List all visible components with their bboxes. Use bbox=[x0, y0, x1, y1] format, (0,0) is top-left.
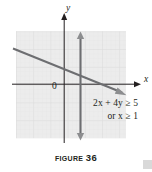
corner-marker bbox=[143, 160, 152, 169]
coordinate-plane: y x 0 2x + 4y ≥ 5 or x ≥ 1 bbox=[0, 0, 152, 145]
y-axis-label: y bbox=[66, 3, 70, 13]
figure-36: y x 0 2x + 4y ≥ 5 or x ≥ 1 FIGURE 36 bbox=[0, 0, 152, 172]
origin-label: 0 bbox=[52, 81, 57, 91]
figure-caption-word: FIGURE bbox=[55, 155, 83, 162]
figure-caption: FIGURE 36 bbox=[0, 152, 152, 163]
inequality-annotation: 2x + 4y ≥ 5 or x ≥ 1 bbox=[72, 97, 138, 122]
figure-caption-number: 36 bbox=[86, 152, 97, 163]
inequality-line-2: or x ≥ 1 bbox=[72, 110, 138, 123]
inequality-line-1: 2x + 4y ≥ 5 bbox=[72, 97, 138, 110]
graph-svg bbox=[0, 0, 152, 145]
x-axis-label: x bbox=[144, 74, 148, 84]
